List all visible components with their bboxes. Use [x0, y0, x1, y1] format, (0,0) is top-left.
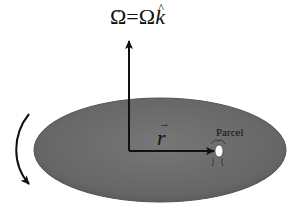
equals-sign: = — [126, 4, 138, 29]
angular-velocity-equation: → Ω =Ω ^ k — [110, 6, 165, 28]
unit-vector-k: ^ k — [155, 6, 165, 28]
parcel-label: Parcel — [216, 126, 243, 138]
omega-scalar: Ω — [139, 4, 155, 29]
vector-arrow-mark: → — [159, 117, 170, 129]
vector-arrow-mark: → — [111, 0, 123, 20]
radius-vector-label: → r — [157, 125, 166, 151]
hat-mark: ^ — [158, 0, 164, 19]
curved-arrow-icon — [16, 114, 29, 184]
omega-vector-symbol: → Ω — [110, 6, 126, 28]
rotating-frame-diagram: → Ω =Ω ^ k → r Parcel — [0, 0, 292, 208]
diagram-graphics — [0, 0, 292, 208]
